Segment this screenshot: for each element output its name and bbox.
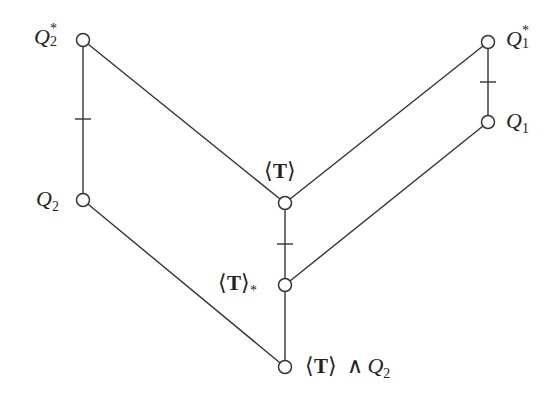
label-q2star: Q*2 (34, 26, 60, 48)
label-tmeetq2: ⟨T⟩ ∧Q2 (305, 355, 390, 381)
diagram-graph (0, 0, 559, 402)
node-q1star (482, 36, 495, 49)
label-q1: Q1 (506, 110, 529, 136)
label-tstar-close: ⟩ (241, 270, 250, 295)
label-tmeet-close: ⟩ (328, 353, 337, 378)
label-t-open: ⟨ (264, 158, 273, 183)
node-q1 (482, 116, 495, 129)
label-tmeet-main: T (314, 354, 328, 378)
label-t-main: T (273, 159, 287, 183)
node-tstar (279, 279, 292, 292)
label-q1star-sub: 1 (522, 37, 529, 51)
label-q2star-sub: 2 (50, 35, 57, 49)
node-tmeetq2 (279, 361, 292, 374)
label-tstar-main: T (227, 271, 241, 295)
label-t-close: ⟩ (287, 158, 296, 183)
label-q1star: Q*1 (506, 28, 532, 50)
edge-q1-tstar (285, 122, 488, 285)
label-q2-sub: 2 (52, 199, 59, 214)
label-tmeet-op: ∧ (347, 353, 363, 378)
node-q2 (77, 194, 90, 207)
edge-q1star-t (285, 42, 488, 203)
label-q2: Q2 (36, 188, 59, 214)
node-t (279, 197, 292, 210)
hasse-diagram: Q*2 Q2 ⟨T⟩ ⟨T⟩* ⟨T⟩ ∧Q2 Q*1 Q1 (0, 0, 559, 402)
label-tstar-open: ⟨ (218, 270, 227, 295)
label-tmeet-main2: Q (367, 353, 383, 378)
label-tmeet-sub2: 2 (383, 366, 390, 381)
label-tmeet-open: ⟨ (305, 353, 314, 378)
label-q1-sub: 1 (522, 121, 529, 136)
label-t: ⟨T⟩ (264, 160, 296, 182)
label-tstar: ⟨T⟩* (218, 272, 257, 298)
label-q2star-main: Q (34, 24, 50, 49)
label-tstar-sub: * (250, 283, 257, 298)
label-q1-main: Q (506, 108, 522, 133)
node-q2star (77, 34, 90, 47)
label-q2-main: Q (36, 186, 52, 211)
label-q1star-main: Q (506, 26, 522, 51)
edge-q2star-t (83, 40, 285, 203)
